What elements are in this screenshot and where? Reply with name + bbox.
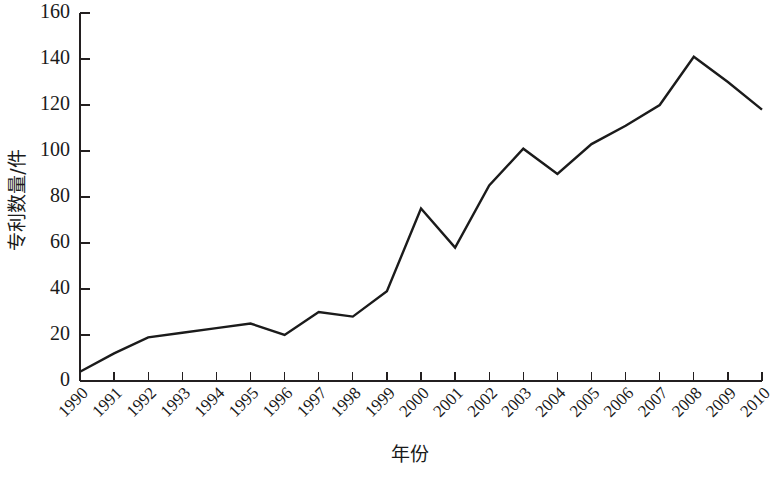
- x-tick-label: 1998: [327, 383, 364, 420]
- x-tick-label: 2009: [702, 383, 739, 420]
- x-tick-label: 2010: [736, 383, 773, 420]
- x-tick-label: 2004: [532, 383, 570, 421]
- x-tick-group: [80, 372, 762, 381]
- y-tick-label: 20: [50, 322, 70, 344]
- y-tick-group: [80, 13, 90, 381]
- x-tick-label: 2006: [600, 383, 637, 420]
- y-tick-label: 160: [40, 0, 70, 22]
- y-tick-labels: 0 20 40 60 80 100 120 140 160: [40, 0, 70, 390]
- x-tick-label: 2008: [668, 383, 705, 420]
- x-tick-label: 1994: [191, 383, 229, 421]
- x-tick-label: 1995: [225, 383, 262, 420]
- y-tick-label: 100: [40, 138, 70, 160]
- x-tick-label: 2003: [498, 383, 535, 420]
- y-tick-label: 0: [60, 368, 70, 390]
- x-tick-label: 1999: [361, 383, 398, 420]
- x-tick-label: 2000: [395, 383, 432, 420]
- y-tick-label: 120: [40, 92, 70, 114]
- x-tick-label: 2007: [634, 383, 672, 421]
- x-tick-label: 1993: [157, 383, 194, 420]
- x-tick-label: 1996: [259, 383, 296, 420]
- y-axis-title: 专利数量/件: [6, 149, 28, 250]
- y-tick-label: 40: [50, 276, 70, 298]
- x-tick-label: 1997: [293, 383, 331, 421]
- x-tick-label: 2002: [464, 383, 501, 420]
- x-tick-label: 2001: [429, 383, 466, 420]
- y-tick-label: 80: [50, 184, 70, 206]
- chart-figure: 专利数量/件 0 20 40 60 80 100 120 140 16: [0, 0, 783, 479]
- x-tick-label: 1992: [123, 383, 160, 420]
- x-tick-labels: 1990199119921993199419951996199719981999…: [54, 383, 773, 421]
- x-tick-label: 1991: [88, 383, 125, 420]
- series-line-patent-count: [80, 57, 762, 372]
- x-axis-title: 年份: [391, 443, 429, 465]
- y-tick-label: 60: [50, 230, 70, 252]
- y-tick-label: 140: [40, 46, 70, 68]
- line-chart-svg: 专利数量/件 0 20 40 60 80 100 120 140 16: [0, 0, 783, 479]
- x-tick-label: 2005: [566, 383, 603, 420]
